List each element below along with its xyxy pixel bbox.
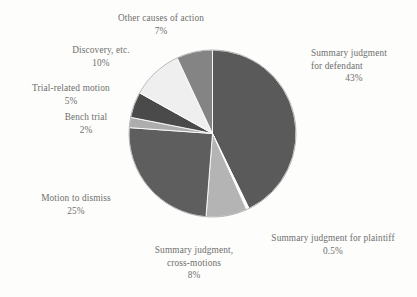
- slice-label-other-causes-of-action: Other causes of action 7%: [86, 12, 236, 37]
- slice-label-percent: 25%: [12, 205, 140, 218]
- slice-label-motion-to-dismiss: Motion to dismiss 25%: [12, 192, 140, 217]
- slice-label-text-2: for defendant: [311, 60, 415, 73]
- slice-label-text: Other causes of action: [118, 13, 204, 23]
- pie-slice[interactable]: [129, 128, 213, 217]
- slice-label-bench-trial: Bench trial 2%: [30, 111, 142, 136]
- slice-label-text: Bench trial: [65, 112, 108, 122]
- slice-label-text: Summary judgment: [311, 48, 387, 58]
- slice-label-percent: 43%: [311, 72, 397, 85]
- slice-label-text: Trial-related motion: [32, 83, 110, 93]
- slice-label-text: Summary judgment for plaintiff: [271, 233, 394, 243]
- slice-label-text: Motion to dismiss: [41, 193, 111, 203]
- slice-label-text-2: cross-motions: [131, 257, 257, 270]
- slice-label-text: Summary judgment,: [155, 245, 233, 255]
- slice-label-discovery: Discovery, etc. 10%: [36, 44, 166, 69]
- slice-label-percent: 7%: [86, 25, 236, 38]
- slice-label-percent: 8%: [131, 269, 257, 282]
- slice-label-summary-judgment-for-plaintiff: Summary judgment for plaintiff 0.5%: [253, 232, 413, 257]
- slice-label-percent: 5%: [6, 95, 136, 108]
- slice-label-text: Discovery, etc.: [72, 45, 130, 55]
- slice-label-summary-judgment-for-defendant: Summary judgment for defendant 43%: [311, 47, 415, 85]
- slice-label-percent: 2%: [30, 124, 142, 137]
- slice-label-percent: 10%: [36, 57, 166, 70]
- slice-label-trial-related-motion: Trial-related motion 5%: [6, 82, 136, 107]
- slice-label-summary-judgment-cross-motions: Summary judgment, cross-motions 8%: [131, 244, 257, 282]
- slice-label-percent: 0.5%: [253, 245, 413, 258]
- pie-chart-figure: Other causes of action 7% Discovery, etc…: [0, 0, 417, 297]
